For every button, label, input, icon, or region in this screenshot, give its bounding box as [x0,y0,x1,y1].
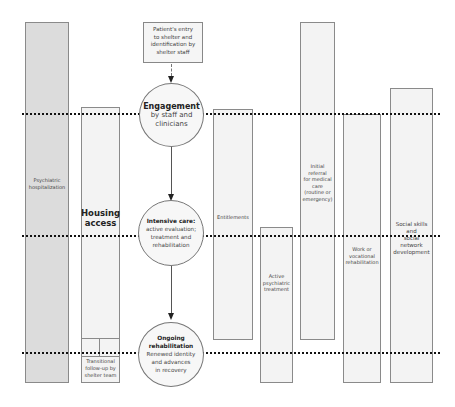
label-line: Transitional [81,358,120,365]
stage-title: Ongoing [157,335,184,343]
phase-line-ongoing-rehabilitation [22,352,440,354]
column-housing-access [81,107,120,383]
stage-title: Intensive care: [147,217,196,225]
title-line: Housing [81,208,120,218]
stage-line: by staff and [151,111,193,120]
label-line: for medical [301,176,334,183]
column-active-psychiatric-treatment: Active psychiatric treatment [260,227,293,383]
stage-line: Renewed identity [147,350,196,358]
housing-divider-bottom [81,356,120,357]
housing-access-title: Housing access [81,208,120,228]
dashed-connector [171,64,172,76]
stage-line: rehabilitation [152,241,189,249]
connector-line [171,147,172,198]
entry-line: shelter staff [144,49,202,57]
label-line: Social skills [391,221,432,228]
arrow-down-icon [168,313,174,320]
entry-line: Patient's entry [144,26,202,34]
patient-entry-box: Patient's entry to shelter and identific… [143,22,203,63]
label-line: and [391,228,432,235]
label-line: treatment [261,286,292,293]
entry-line: to shelter and [144,34,202,42]
column-psychiatric-hospitalization: Psychiatric hospitalization [25,22,69,383]
label-line: shelter team [81,372,120,379]
column-label: Active psychiatric treatment [261,273,292,293]
column-vocational-rehabilitation: Work or vocational rehabilitation [343,114,381,383]
arrow-down-icon [168,76,174,83]
connector-line [171,266,172,314]
column-medical-referral: Initial referral for medical care (routi… [300,22,335,340]
stage-line: clinicians [155,120,187,129]
transitional-follow-up-label: Transitional follow-up by shelter team [81,358,120,379]
stage-line: in recovery [155,366,186,374]
title-line: access [81,218,120,228]
phase-line-engagement [22,113,440,115]
stage-title: Engagement [143,102,200,111]
stage-line: and advances [152,358,191,366]
entry-line: identification by [144,41,202,49]
label-line: development [391,249,432,256]
housing-divider-top [81,338,120,339]
label-line: network [391,242,432,249]
stage-engagement: Engagement by staff and clinicians [139,83,204,147]
column-label: Social skills and social network develop… [391,221,432,256]
column-label: Initial referral for medical care (routi… [301,163,334,202]
stage-ongoing-rehabilitation: Ongoing rehabilitation Renewed identity … [138,322,204,387]
label-line: emergency) [301,196,334,203]
column-entitlements: Entitlements [213,109,253,340]
label-line: rehabilitation [344,259,380,266]
column-label: Psychiatric hospitalization [26,177,68,190]
stage-intensive-care: Intensive care: active evaluation; treat… [138,200,204,266]
stage-line: treatment and [151,233,191,241]
label-line: hospitalization [26,184,68,191]
label-line: (routine or [301,189,334,196]
stage-line: active evaluation; [146,225,196,233]
phase-line-intensive-care [22,235,440,237]
stage-title: rehabilitation [149,343,194,351]
column-label: Work or vocational rehabilitation [344,246,380,266]
column-label: Entitlements [214,214,252,221]
label-line: follow-up by [81,365,120,372]
